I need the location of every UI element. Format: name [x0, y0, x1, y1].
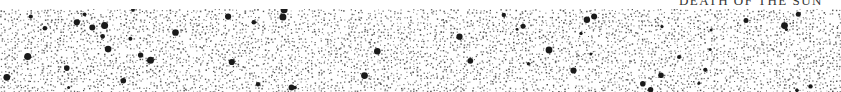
- stipple-canvas: [0, 9, 841, 92]
- star-field-illustration: [0, 9, 841, 92]
- running-header: DEATH OF THE SUN: [679, 0, 823, 9]
